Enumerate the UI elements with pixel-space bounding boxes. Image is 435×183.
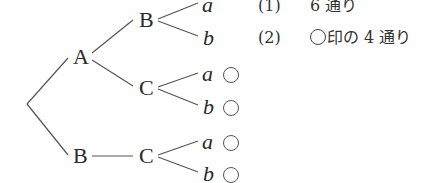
circle-mark-icon	[223, 100, 239, 116]
circle-mark-icon	[223, 67, 239, 83]
leaf-b-2: b	[203, 96, 214, 118]
leaf-a-1: a	[202, 0, 213, 16]
node-c-bottom: C	[139, 145, 154, 167]
leaf-b-1: b	[203, 27, 214, 49]
circle-mark-icon	[223, 167, 239, 183]
leaf-a-3: a	[202, 131, 213, 153]
node-b-bottom: B	[73, 145, 88, 167]
node-a: A	[73, 46, 89, 68]
leaf-a-2: a	[202, 63, 213, 85]
circle-mark-icon	[310, 29, 326, 45]
node-c-mid: C	[139, 77, 154, 99]
answer-1-number: (1)	[258, 0, 310, 16]
answer-2-number: (2)	[258, 28, 310, 48]
node-b-top: B	[139, 9, 154, 31]
circle-mark-icon	[223, 135, 239, 151]
answer-1-text: 6 通り	[310, 0, 357, 15]
answer-2-text: 印の 4 通り	[327, 28, 411, 47]
answer-2: (2)印の 4 通り	[258, 28, 411, 48]
answer-1: (1)6 通り	[258, 0, 357, 16]
leaf-b-3: b	[203, 163, 214, 183]
